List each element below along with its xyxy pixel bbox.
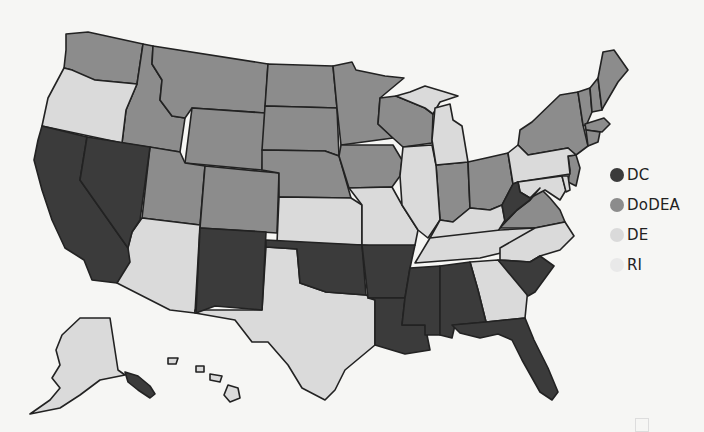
legend-item-de[interactable]: DE [610, 223, 680, 247]
state-ny[interactable] [518, 92, 588, 155]
state-sd[interactable] [262, 106, 339, 156]
legend-label-dodea: DoDEA [627, 196, 680, 214]
state-mt[interactable] [152, 46, 268, 118]
legend-swatch-de [610, 228, 624, 242]
legend-item-dc[interactable]: DC [610, 163, 680, 187]
state-ct[interactable] [586, 130, 600, 146]
legend-label-dc: DC [627, 166, 649, 184]
state-hi-islands[interactable] [168, 358, 222, 382]
state-ia[interactable] [339, 145, 402, 188]
state-ak-panhandle[interactable] [125, 372, 155, 398]
faint-checkbox-artifact [635, 418, 649, 432]
state-ak[interactable] [30, 318, 125, 414]
legend-swatch-ri [610, 258, 624, 272]
us-choropleth-map [0, 0, 704, 432]
state-nd[interactable] [265, 64, 337, 108]
legend-label-ri: RI [627, 256, 642, 274]
map-legend: DC DoDEA DE RI [610, 163, 680, 283]
state-wy[interactable] [185, 108, 265, 170]
state-me[interactable] [598, 50, 628, 110]
state-co[interactable] [200, 166, 279, 233]
legend-item-ri[interactable]: RI [610, 253, 680, 277]
legend-label-de: DE [627, 226, 648, 244]
legend-swatch-dodea [610, 198, 624, 212]
state-hi-big[interactable] [224, 385, 240, 402]
state-ks[interactable] [277, 197, 362, 245]
state-mi-lower[interactable] [432, 104, 468, 165]
state-fl[interactable] [452, 318, 558, 400]
legend-swatch-dc [610, 168, 624, 182]
legend-item-dodea[interactable]: DoDEA [610, 193, 680, 217]
state-nm[interactable] [196, 228, 266, 313]
